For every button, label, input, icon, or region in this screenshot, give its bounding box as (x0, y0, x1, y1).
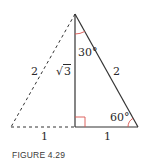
sqrt-symbol: √ (56, 65, 63, 78)
top-angle-arc (75, 32, 85, 35)
right-hypotenuse-label: 2 (113, 66, 120, 77)
top-angle-label: 30° (78, 47, 98, 58)
triangle-figure: 2 √3 30° 2 60° 1 1 FIGURE 4.29 (0, 0, 147, 164)
figure-caption: FIGURE 4.29 (12, 150, 65, 160)
bottom-right-angle-label: 60° (110, 112, 130, 123)
altitude-label: √3 (56, 66, 71, 77)
right-base-label: 1 (104, 131, 111, 142)
right-angle-marker (75, 117, 85, 127)
left-hypotenuse-label: 2 (31, 66, 38, 77)
left-base-label: 1 (41, 131, 48, 142)
altitude-radicand: 3 (63, 64, 71, 78)
triangle-diagram (0, 0, 147, 164)
